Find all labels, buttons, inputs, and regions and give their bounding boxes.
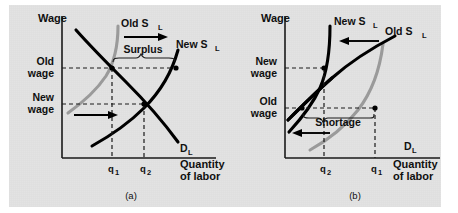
panel-a-surplus-bracket <box>113 54 175 62</box>
panel-a: Wage Old wage New wage q 1 q 2 Old S L N… <box>27 12 226 201</box>
panel-b-q1-base: q <box>371 163 377 174</box>
panel-a-wage-label-1-line2: wage <box>27 67 54 79</box>
panel-b-new-supply-sub: L <box>373 21 378 30</box>
panel-b: Wage New wage Old wage q 2 q 1 New S L O… <box>250 12 440 201</box>
panel-b-demand-base: D <box>404 140 412 152</box>
panel-a-q2-sub: 2 <box>147 168 151 177</box>
panel-a-q1-tick-label: q 1 <box>108 163 119 177</box>
panel-b-wage-label-2-line2: wage <box>250 107 277 119</box>
panel-b-old-supply-curve <box>310 44 383 150</box>
panel-a-x-axis-label-line1: Quantity <box>180 158 225 170</box>
panel-a-old-equilibrium-point <box>109 65 114 70</box>
panel-b-shift-arrow-lower <box>292 129 330 137</box>
panel-b-y-axis-label: Wage <box>261 12 290 24</box>
panel-a-y-axis-label: Wage <box>38 12 67 24</box>
panel-a-q1-base: q <box>108 163 114 174</box>
panel-b-wage-label-1-line1: New <box>255 55 277 67</box>
panel-b-wage-label-2-line1: Old <box>260 95 278 107</box>
panel-b-q2-sub: 2 <box>327 168 331 177</box>
panel-a-new-supply-sub: L <box>215 44 220 53</box>
panel-b-q2-tick-label: q 2 <box>320 163 331 177</box>
panel-a-new-supply-label: New S L <box>176 38 220 53</box>
panel-a-old-supply-label: Old S L <box>121 17 163 32</box>
panel-a-wage-label-2-line2: wage <box>27 103 54 115</box>
panel-b-demand-label: D L <box>404 140 417 155</box>
panel-a-wage-label-2-line1: New <box>32 91 54 103</box>
panel-b-old-equilibrium-point <box>372 105 377 110</box>
panel-b-demand-seg-1 <box>288 78 332 120</box>
panel-a-q1-sub: 1 <box>115 168 119 177</box>
figure-container: Wage Old wage New wage q 1 q 2 Old S L N… <box>0 0 458 213</box>
panel-b-x-axis-label-line1: Quantity <box>393 158 438 170</box>
panel-a-demand-sub: L <box>188 148 193 157</box>
panel-b-new-supply-base: New S <box>334 15 366 27</box>
panel-b-new-supply-label: New S L <box>334 15 378 30</box>
panel-b-q2-base: q <box>320 163 326 174</box>
panel-a-x-axis-label-line2: of labor <box>180 170 221 182</box>
panel-b-caption: (b) <box>349 190 361 201</box>
economics-diagram: Wage Old wage New wage q 1 q 2 Old S L N… <box>0 0 458 213</box>
panel-b-old-supply-base: Old S <box>385 25 412 37</box>
panel-b-x-axis-label-line2: of labor <box>393 170 434 182</box>
panel-a-q2-base: q <box>140 163 146 174</box>
panel-b-q1-sub: 1 <box>378 168 382 177</box>
panel-b-demand-sub: L <box>412 146 417 155</box>
panel-b-shortage-endpoint <box>299 105 304 110</box>
panel-b-q1-tick-label: q 1 <box>371 163 382 177</box>
panel-a-new-supply-curve <box>92 50 178 146</box>
panel-a-wage-label-1-line1: Old <box>37 55 55 67</box>
panel-a-surplus-label: Surplus <box>123 43 162 55</box>
panel-b-wage-label-1-line2: wage <box>250 67 277 79</box>
panel-a-q2-tick-label: q 2 <box>140 163 151 177</box>
panel-a-shift-arrow-upper <box>124 33 168 41</box>
panel-a-new-equilibrium-point <box>141 101 146 106</box>
panel-b-shift-arrow-upper <box>339 37 379 45</box>
panel-a-surplus-endpoint <box>173 65 178 70</box>
panel-b-old-supply-sub: L <box>422 31 427 40</box>
panel-a-old-supply-sub: L <box>158 23 163 32</box>
panel-a-demand-label: D L <box>180 142 193 157</box>
panel-b-shortage-label: Shortage <box>315 116 361 128</box>
panel-a-demand-base: D <box>180 142 188 154</box>
panel-a-caption: (a) <box>125 190 137 201</box>
panel-a-new-supply-base: New S <box>176 38 208 50</box>
panel-b-new-equilibrium-point <box>321 65 326 70</box>
panel-a-old-supply-base: Old S <box>121 17 148 29</box>
